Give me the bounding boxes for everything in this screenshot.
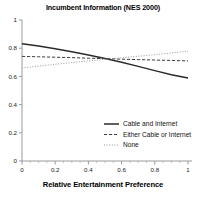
y-tick-label: 0.6 bbox=[8, 73, 17, 80]
legend-label: None bbox=[123, 141, 139, 148]
y-tick-label: 0.2 bbox=[8, 129, 17, 136]
series-line bbox=[22, 44, 188, 78]
x-tick-label: 0 bbox=[20, 166, 24, 173]
y-tick-label: 0 bbox=[14, 157, 18, 164]
chart-figure: Incumbent Information (NES 2000) 00.20.4… bbox=[0, 0, 206, 200]
x-tick-label: 1 bbox=[186, 166, 190, 173]
chart-legend: Cable and InternetEither Cable or Intern… bbox=[104, 120, 191, 148]
x-tick-label: 0.8 bbox=[150, 166, 159, 173]
x-tick-label: 0.4 bbox=[84, 166, 93, 173]
series-line bbox=[22, 56, 188, 61]
x-axis-label: Relative Entertainment Preference bbox=[0, 180, 206, 189]
y-tick-label: 0.8 bbox=[8, 44, 17, 51]
legend-label: Cable and Internet bbox=[123, 120, 177, 127]
axis-lines bbox=[22, 20, 192, 161]
plot-area: 00.20.40.60.81 00.20.40.60.81 Cable and … bbox=[0, 0, 206, 200]
x-tick-label: 0.2 bbox=[51, 166, 60, 173]
y-tick-label: 1 bbox=[14, 16, 18, 23]
x-tick-label: 0.6 bbox=[117, 166, 126, 173]
y-axis-ticks: 00.20.40.60.81 bbox=[8, 16, 22, 164]
y-tick-label: 0.4 bbox=[8, 101, 17, 108]
legend-label: Either Cable or Internet bbox=[123, 131, 191, 138]
series-line bbox=[22, 51, 188, 68]
data-series-group bbox=[22, 44, 188, 78]
